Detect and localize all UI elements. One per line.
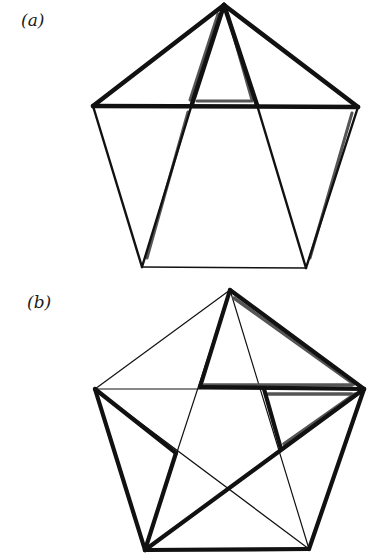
panel-b-thick-lines	[95, 290, 364, 550]
panel-a-diagram	[93, 5, 358, 268]
panel-a-thick-lines	[93, 5, 358, 107]
panel-a-thin-lines	[142, 267, 306, 268]
pentagon-figure	[0, 0, 385, 555]
panel-a-medium-lines	[93, 104, 358, 268]
panel-b-shading	[204, 298, 355, 444]
panel-b-diagram	[95, 290, 364, 550]
